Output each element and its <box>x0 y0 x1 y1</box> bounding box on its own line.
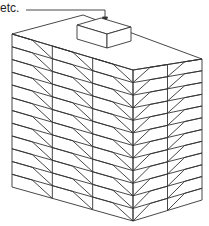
building-diagram <box>0 0 209 226</box>
